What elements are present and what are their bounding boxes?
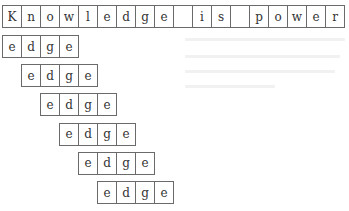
letter-cell: K [2,5,22,28]
bleed-through-text [185,85,275,88]
letter-cell: d [116,181,136,204]
bleed-through-text [185,70,335,73]
letter-cell: e [59,123,79,146]
letter-cell: s [211,5,231,28]
letter-cell: o [268,5,288,28]
blank-cell [230,5,250,28]
letter-cell: e [40,93,60,116]
letter-cell: d [40,64,60,87]
letter-cell: e [97,5,117,28]
word-row: edge [78,152,155,175]
letter-cell: g [78,93,98,116]
letter-cell: e [306,5,326,28]
word-row: edge [59,123,136,146]
letter-cell: e [97,93,117,116]
letter-cell: e [78,64,98,87]
letter-cell: g [59,64,79,87]
bleed-through-text [185,55,340,58]
letter-cell: p [249,5,269,28]
blank-cell [173,5,193,28]
letter-cell: i [192,5,212,28]
letter-cell: d [21,35,41,58]
letter-cell: e [78,152,98,175]
word-row: edge [40,93,117,116]
letter-cell: d [97,152,117,175]
letter-cell: g [135,5,155,28]
letter-cell: r [325,5,345,28]
letter-cell: e [59,35,79,58]
letter-cell: e [154,5,174,28]
letter-cell: d [59,93,79,116]
word-row: edge [97,181,174,204]
letter-cell: e [97,181,117,204]
letter-cell: o [40,5,60,28]
letter-cell: d [78,123,98,146]
letter-cell: g [40,35,60,58]
letter-cell: w [287,5,307,28]
letter-cell: e [154,181,174,204]
bleed-through-text [185,38,345,41]
letter-cell: e [2,35,22,58]
letter-cell: d [116,5,136,28]
letter-cell: e [135,152,155,175]
letter-cell: e [116,123,136,146]
word-row: edge [2,35,79,58]
word-row: edge [21,64,98,87]
letter-cell: g [97,123,117,146]
letter-cell: l [78,5,98,28]
sentence-row: Knowledgeispower [2,5,345,28]
letter-cell: e [21,64,41,87]
letter-cell: g [116,152,136,175]
letter-cell: n [21,5,41,28]
letter-cell: g [135,181,155,204]
letter-cell: w [59,5,79,28]
